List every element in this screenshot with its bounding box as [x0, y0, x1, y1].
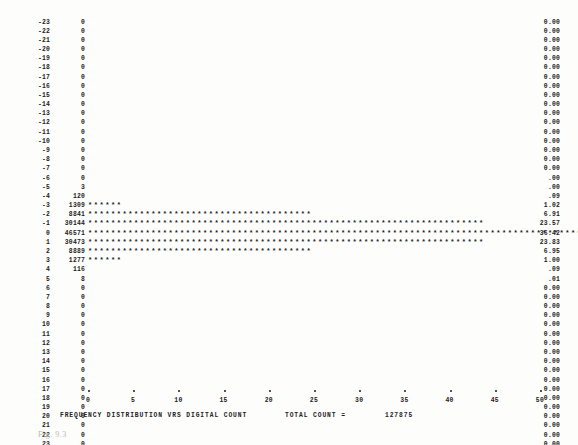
row-percent-value: .00 — [516, 174, 560, 183]
histogram-row: -900.00 — [0, 146, 578, 155]
histogram-row: 046571**********************************… — [0, 229, 578, 238]
axis-tick-label: 45 — [482, 397, 508, 404]
histogram-row: 1000.00 — [0, 320, 578, 329]
row-bin-label: -22 — [20, 27, 50, 36]
row-count-value: 30144 — [52, 219, 85, 228]
axis-tick-label: 20 — [256, 397, 282, 404]
histogram-row: 1300.00 — [0, 348, 578, 357]
row-bin-label: -8 — [20, 155, 50, 164]
histogram-row: 800.00 — [0, 302, 578, 311]
histogram-row: -1000.00 — [0, 137, 578, 146]
row-bin-label: -18 — [20, 63, 50, 72]
row-count-value: 0 — [52, 36, 85, 45]
row-percent-value: .09 — [516, 265, 560, 274]
row-bin-label: -20 — [20, 45, 50, 54]
axis-tick-mark — [359, 390, 361, 392]
row-count-value: 0 — [52, 357, 85, 366]
row-bin-label: -12 — [20, 118, 50, 127]
histogram-row: 2200.00 — [0, 431, 578, 440]
row-bin-label: 13 — [20, 348, 50, 357]
histogram-row: 1400.00 — [0, 357, 578, 366]
row-bin-label: -6 — [20, 174, 50, 183]
row-count-value: 0 — [52, 27, 85, 36]
row-count-value: 0 — [52, 293, 85, 302]
row-bin-label: -7 — [20, 164, 50, 173]
row-bar: ****************************************… — [88, 219, 485, 228]
row-percent-value: 0.00 — [516, 320, 560, 329]
row-count-value: 46571 — [52, 229, 85, 238]
axis-caption-group: FREQUENCY DISTRIBUTION VRS DIGITAL COUNT… — [0, 412, 578, 426]
row-percent-value: 36.42 — [516, 229, 560, 238]
histogram-row: 900.00 — [0, 311, 578, 320]
histogram-row: -53.00 — [0, 183, 578, 192]
row-bin-label: -14 — [20, 100, 50, 109]
row-count-value: 0 — [52, 54, 85, 63]
row-percent-value: 0.00 — [516, 91, 560, 100]
frequency-histogram: -2300.00-2200.00-2100.00-2000.00-1900.00… — [0, 0, 578, 445]
row-percent-value: 0.00 — [516, 164, 560, 173]
histogram-row: -1200.00 — [0, 118, 578, 127]
row-percent-value: 0.00 — [516, 118, 560, 127]
row-percent-value: 0.00 — [516, 293, 560, 302]
axis-tick-mark — [495, 390, 497, 392]
histogram-row: -1100.00 — [0, 128, 578, 137]
histogram-row: -1800.00 — [0, 63, 578, 72]
row-count-value: 8889 — [52, 247, 85, 256]
row-percent-value: 23.83 — [516, 238, 560, 247]
histogram-row: -2300.00 — [0, 18, 578, 27]
axis-tick-mark — [404, 390, 406, 392]
axis-tick-mark — [314, 390, 316, 392]
row-percent-value: 0.00 — [516, 284, 560, 293]
row-percent-value: 0.00 — [516, 54, 560, 63]
row-percent-value: 0.00 — [516, 100, 560, 109]
figure-number-caption: Fig. 9.3 — [38, 430, 67, 439]
histogram-row: 1200.00 — [0, 339, 578, 348]
row-count-value: 116 — [52, 265, 85, 274]
histogram-row: 1100.00 — [0, 330, 578, 339]
row-count-value: 0 — [52, 320, 85, 329]
chart-title: FREQUENCY DISTRIBUTION VRS DIGITAL COUNT — [60, 412, 247, 419]
histogram-row: -28841**********************************… — [0, 210, 578, 219]
axis-tick-mark — [540, 390, 542, 392]
row-percent-value: 1.02 — [516, 201, 560, 210]
row-bin-label: -21 — [20, 36, 50, 45]
row-bin-label: 4 — [20, 265, 50, 274]
row-count-value: 0 — [52, 128, 85, 137]
row-count-value: 1309 — [52, 201, 85, 210]
row-count-value: 0 — [52, 155, 85, 164]
row-bin-label: 16 — [20, 376, 50, 385]
row-bar: *************************************** — [88, 247, 312, 256]
histogram-row: -60.00 — [0, 174, 578, 183]
row-bin-label: -19 — [20, 54, 50, 63]
axis-tick-label: 15 — [211, 397, 237, 404]
row-count-value: 0 — [52, 440, 85, 445]
histogram-row: -2100.00 — [0, 36, 578, 45]
row-count-value: 0 — [52, 118, 85, 127]
axis-tick-mark — [269, 390, 271, 392]
total-count-label: TOTAL COUNT = — [285, 412, 346, 419]
row-count-value: 0 — [52, 91, 85, 100]
row-percent-value: 0.00 — [516, 440, 560, 445]
row-bar: ****** — [88, 256, 123, 265]
histogram-row: -800.00 — [0, 155, 578, 164]
row-bin-label: 10 — [20, 320, 50, 329]
row-percent-value: 0.00 — [516, 36, 560, 45]
row-count-value: 0 — [52, 376, 85, 385]
row-percent-value: 0.00 — [516, 357, 560, 366]
row-count-value: 0 — [52, 311, 85, 320]
row-percent-value: 0.00 — [516, 330, 560, 339]
row-bin-label: 12 — [20, 339, 50, 348]
row-count-value: 30473 — [52, 238, 85, 247]
row-percent-value: 0.00 — [516, 155, 560, 164]
row-count-value: 0 — [52, 63, 85, 72]
axis-tick-label: 5 — [120, 397, 146, 404]
row-bin-label: 5 — [20, 275, 50, 284]
row-count-value: 1277 — [52, 256, 85, 265]
row-count-value: 0 — [52, 366, 85, 375]
row-count-value: 0 — [52, 174, 85, 183]
row-percent-value: 0.00 — [516, 146, 560, 155]
row-bar: *************************************** — [88, 210, 312, 219]
row-count-value: 3 — [52, 183, 85, 192]
row-bar: ****** — [88, 201, 123, 210]
row-percent-value: .09 — [516, 192, 560, 201]
